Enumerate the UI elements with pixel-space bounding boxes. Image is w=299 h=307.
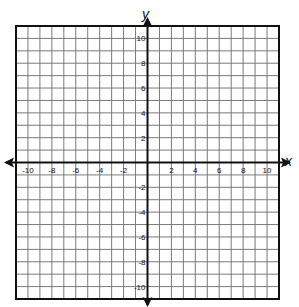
coordinate-plane: -10-8-6-4-2246810 108642-2-4-6-8-10 x y (0, 0, 299, 307)
y-tick-label: -4 (138, 208, 146, 217)
y-tick-label: 6 (141, 84, 146, 93)
x-tick-label: -6 (72, 166, 80, 175)
y-tick-label: -10 (134, 283, 146, 292)
y-tick-label: -6 (138, 233, 146, 242)
x-tick-label: 4 (193, 166, 198, 175)
x-tick-label: -8 (48, 166, 56, 175)
x-tick-label: -4 (96, 166, 104, 175)
x-tick-label: 10 (263, 166, 272, 175)
y-tick-label: 4 (141, 109, 146, 118)
axes (4, 17, 291, 307)
y-tick-label: -2 (138, 183, 146, 192)
y-tick-label: 8 (141, 59, 146, 68)
y-tick-label: 2 (141, 134, 146, 143)
y-tick-label: 10 (137, 34, 146, 43)
x-axis-label: x (284, 153, 293, 169)
y-tick-label: -8 (138, 258, 146, 267)
x-tick-label: 8 (241, 166, 246, 175)
x-tick-label: 2 (169, 166, 174, 175)
x-tick-label: 6 (217, 166, 222, 175)
x-tick-label: -10 (22, 166, 34, 175)
y-axis-label: y (141, 6, 150, 22)
x-tick-label: -2 (120, 166, 128, 175)
